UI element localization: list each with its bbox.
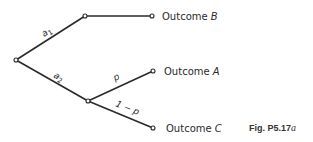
outcome-b-label: Outcome B	[162, 11, 218, 22]
label-a2: a2	[51, 70, 66, 85]
outcome-b-node	[150, 14, 154, 18]
label-a1: a1	[40, 25, 55, 40]
outcome-c-node	[151, 126, 155, 130]
outcome-a-label: Outcome A	[164, 66, 220, 77]
decision-tree: a1 a2 p 1 − p Outcome B Outcome A Outcom…	[0, 0, 313, 142]
outcome-a-node	[151, 69, 155, 73]
label-p: p	[111, 71, 122, 83]
edge-a2	[16, 60, 88, 101]
figure-caption: Fig. P5.17a	[249, 122, 296, 133]
outcome-c-label: Outcome C	[166, 123, 222, 134]
node-a2	[86, 99, 90, 103]
edge-a1	[16, 16, 85, 60]
edge-p	[88, 71, 153, 101]
node-a1	[83, 14, 87, 18]
root-node	[14, 58, 18, 62]
